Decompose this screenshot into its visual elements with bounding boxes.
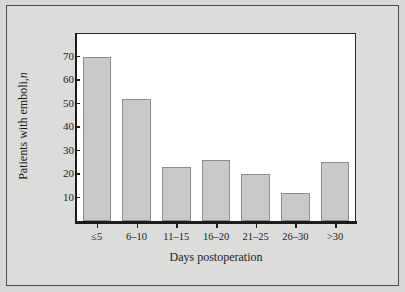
x-tick-label: 6–10 — [126, 232, 147, 243]
bar — [241, 174, 270, 221]
bars-layer — [77, 33, 355, 221]
y-tick-label: 30 — [52, 145, 74, 156]
x-tick-mark — [295, 223, 297, 228]
x-tick-mark — [137, 223, 139, 228]
y-tick-mark — [75, 56, 80, 58]
y-tick-label: 20 — [52, 168, 74, 179]
y-tick-mark — [75, 79, 80, 81]
bar — [122, 99, 151, 221]
x-tick-label: 26–30 — [282, 232, 308, 243]
y-tick-label: 70 — [52, 51, 74, 62]
y-axis-title: Patients with emboli,n — [17, 41, 29, 211]
x-tick-mark — [256, 223, 258, 228]
x-tick-mark — [216, 223, 218, 228]
y-tick-mark — [75, 126, 80, 128]
bar — [321, 162, 350, 221]
y-tick-mark — [75, 103, 80, 105]
x-tick-label: 16–20 — [203, 232, 229, 243]
bar — [162, 167, 191, 221]
x-tick-mark — [176, 223, 178, 228]
bar — [83, 57, 112, 222]
y-tick-label: 10 — [52, 192, 74, 203]
x-tick-mark — [335, 223, 337, 228]
y-tick-label: 40 — [52, 121, 74, 132]
figure: 10203040506070 Days postoperation Patien… — [0, 0, 405, 292]
x-tick-mark — [97, 223, 99, 228]
x-tick-label: >30 — [327, 232, 343, 243]
y-tick-mark — [75, 150, 80, 152]
bar — [202, 160, 231, 221]
x-axis-title: Days postoperation — [76, 251, 356, 263]
y-tick-mark — [75, 173, 80, 175]
y-tick-label: 50 — [52, 98, 74, 109]
bar — [281, 193, 310, 221]
y-tick-mark — [75, 197, 80, 199]
y-axis-title-italic-n: n — [16, 72, 30, 78]
x-tick-label: ≤5 — [91, 232, 102, 243]
x-tick-label: 21–25 — [243, 232, 269, 243]
y-axis-ticks: 10203040506070 — [46, 0, 74, 292]
x-tick-label: 11–15 — [163, 232, 189, 243]
y-tick-label: 60 — [52, 74, 74, 85]
y-axis-title-text: Patients with emboli, — [16, 78, 30, 180]
